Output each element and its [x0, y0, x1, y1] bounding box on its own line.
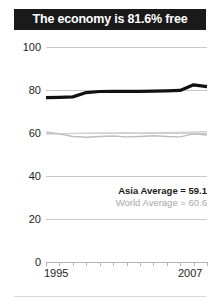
- x-tick-2001: [127, 262, 128, 266]
- series-layer: [0, 34, 215, 274]
- x-tick-1996: [59, 262, 60, 266]
- x-tick-1995: [46, 262, 47, 266]
- x-tick-2007: [207, 262, 208, 266]
- annotation-block: Asia Average = 59.1 World Average = 60.6: [116, 185, 207, 209]
- x-tick-2002: [140, 262, 141, 266]
- x-tick-1998: [86, 262, 87, 266]
- x-tick-1997: [73, 262, 74, 266]
- x-axis-start-label: 1995: [44, 268, 68, 279]
- series-line-2: [46, 132, 207, 134]
- world-average-label: World Average = 60.6: [116, 197, 207, 209]
- chart-title-banner: The economy is 81.6% free: [14, 9, 206, 30]
- series-line-0: [46, 85, 207, 98]
- bottom-divider: [14, 296, 206, 297]
- x-tick-2003: [153, 262, 154, 266]
- plot-area: 100806040200 Asia Average = 59.1 World A…: [0, 34, 215, 274]
- economic-freedom-chart: The economy is 81.6% free 100806040200 A…: [0, 0, 215, 306]
- x-tick-2004: [167, 262, 168, 266]
- asia-average-label: Asia Average = 59.1: [116, 185, 207, 197]
- page-title: The economy is 81.6% free: [33, 13, 188, 26]
- x-tick-2000: [113, 262, 114, 266]
- x-tick-2006: [194, 262, 195, 266]
- x-axis-end-label: 2007: [178, 268, 202, 279]
- x-tick-2005: [180, 262, 181, 266]
- x-tick-1999: [100, 262, 101, 266]
